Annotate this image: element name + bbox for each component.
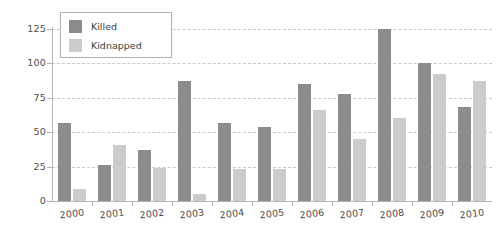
y-tickmark-75 bbox=[47, 98, 52, 99]
bar-killed-2009 bbox=[418, 63, 431, 201]
bar-kidnapped-2010 bbox=[473, 81, 486, 201]
y-tickmark-100 bbox=[47, 63, 52, 64]
y-tickmark-25 bbox=[47, 167, 52, 168]
bar-kidnapped-2006 bbox=[313, 110, 326, 201]
x-tick-label-2001: 2001 bbox=[89, 205, 134, 221]
x-tick-label-2000: 2000 bbox=[49, 205, 94, 221]
x-tick-label-2002: 2002 bbox=[129, 205, 174, 221]
y-axis-ticks: 0255075100125 bbox=[0, 0, 46, 233]
x-tick-label-2010: 2010 bbox=[449, 205, 494, 221]
bar-kidnapped-2003 bbox=[193, 194, 206, 201]
bar-killed-2003 bbox=[178, 81, 191, 201]
y-tick-label-100: 100 bbox=[12, 57, 46, 68]
y-tick-label-50: 50 bbox=[12, 126, 46, 137]
y-tick-label-75: 75 bbox=[12, 92, 46, 103]
x-axis-spine bbox=[52, 201, 492, 202]
chart-legend: Killed Kidnapped bbox=[60, 12, 172, 58]
legend-swatch-kidnapped-icon bbox=[69, 39, 82, 52]
bar-kidnapped-2000 bbox=[73, 189, 86, 201]
bar-kidnapped-2002 bbox=[153, 168, 166, 201]
bar-kidnapped-2004 bbox=[233, 169, 246, 201]
y-tick-label-125: 125 bbox=[12, 23, 46, 34]
bar-kidnapped-2001 bbox=[113, 145, 126, 201]
x-tick-label-2009: 2009 bbox=[409, 205, 454, 221]
bar-kidnapped-2005 bbox=[273, 169, 286, 201]
x-tick-label-2003: 2003 bbox=[169, 205, 214, 221]
y-tick-label-25: 25 bbox=[12, 161, 46, 172]
y-axis-spine bbox=[52, 27, 53, 202]
bar-killed-2010 bbox=[458, 107, 471, 201]
y-tickmark-0 bbox=[47, 201, 52, 202]
legend-item-kidnapped: Kidnapped bbox=[69, 38, 142, 52]
x-tick-label-2005: 2005 bbox=[249, 205, 294, 221]
bar-killed-2001 bbox=[98, 165, 111, 201]
x-tick-label-2004: 2004 bbox=[209, 205, 254, 221]
bar-kidnapped-2009 bbox=[433, 74, 446, 201]
y-tick-label-0: 0 bbox=[12, 195, 46, 206]
bar-killed-2008 bbox=[378, 29, 391, 201]
bar-killed-2006 bbox=[298, 84, 311, 201]
legend-swatch-killed-icon bbox=[69, 20, 82, 33]
x-tick-label-2008: 2008 bbox=[369, 205, 414, 221]
bar-killed-2007 bbox=[338, 94, 351, 201]
y-tickmark-125 bbox=[47, 29, 52, 30]
bar-killed-2004 bbox=[218, 123, 231, 201]
bar-killed-2000 bbox=[58, 123, 71, 201]
y-tickmark-50 bbox=[47, 132, 52, 133]
bar-chart: 0255075100125 20002001200220032004200520… bbox=[0, 0, 504, 233]
legend-label-kidnapped: Kidnapped bbox=[91, 40, 142, 51]
legend-item-killed: Killed bbox=[69, 19, 117, 33]
bar-killed-2002 bbox=[138, 150, 151, 201]
bar-killed-2005 bbox=[258, 127, 271, 201]
x-tick-label-2007: 2007 bbox=[329, 205, 374, 221]
bar-kidnapped-2007 bbox=[353, 139, 366, 201]
bar-kidnapped-2008 bbox=[393, 118, 406, 201]
x-tick-label-2006: 2006 bbox=[289, 205, 334, 221]
legend-label-killed: Killed bbox=[91, 21, 117, 32]
